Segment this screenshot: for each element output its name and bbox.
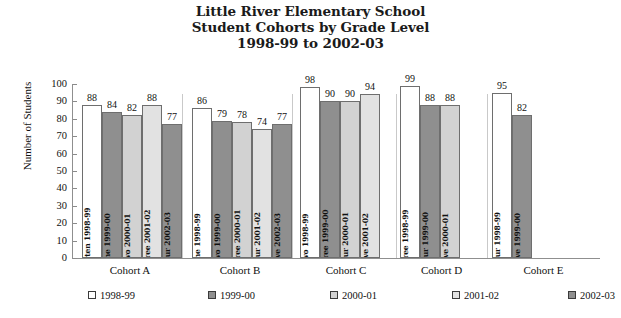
plot-area: Number of Students 100908070605040302010…	[0, 0, 621, 318]
bar-category-label: Grade Three 2001-02	[143, 210, 152, 258]
bar[interactable]: Grade Two 1998-99	[300, 87, 320, 258]
y-axis-tick-label: 50	[41, 166, 67, 176]
bar-category-label: Grade Two 2000-01	[123, 214, 132, 258]
y-axis-tick-mark	[73, 171, 77, 172]
legend-item[interactable]: 1998-99	[88, 288, 135, 302]
bar[interactable]: Grade Two 2000-01	[122, 115, 142, 258]
cohort-axis-label: Cohort D	[396, 264, 487, 276]
bar-value-label: 88	[139, 92, 165, 103]
cohort-separator	[182, 94, 183, 258]
cohort-axis-label: Cohort A	[78, 264, 182, 276]
y-axis-tick-label: 90	[41, 96, 67, 106]
y-axis-tick-mark	[73, 136, 77, 137]
legend-label: 1999-00	[220, 290, 255, 301]
bar-category-label: Grade Five 2002-03	[273, 213, 282, 258]
legend-swatch-icon	[452, 291, 460, 299]
cohort-separator	[396, 94, 397, 258]
y-axis-tick-label: 20	[41, 218, 67, 228]
bar-category-label: Grade Two 1999-00	[213, 214, 222, 258]
bar-category-label: Kindergarten 1998-99	[83, 208, 92, 258]
bar-value-label: 94	[357, 81, 383, 92]
bar-category-label: Grade Four 1999-00	[421, 212, 430, 258]
y-axis-tick-mark	[73, 101, 77, 102]
bar[interactable]: Grade Five 2001-02	[360, 94, 380, 258]
bar[interactable]: Grade Four 1998-99	[492, 93, 512, 258]
x-axis-line	[72, 258, 600, 259]
legend-swatch-icon	[330, 291, 338, 299]
y-axis-tick-mark	[73, 84, 77, 85]
bar-category-label: Grade Four 1998-99	[493, 212, 502, 258]
y-axis-tick-mark	[73, 154, 77, 155]
y-axis-tick-label: 0	[41, 253, 67, 263]
bar[interactable]: Grade One 1999-00	[102, 112, 122, 258]
legend-item[interactable]: 2002-03	[568, 288, 615, 302]
chart-legend: 1998-991999-002000-012001-022002-03	[0, 288, 621, 304]
legend-swatch-icon	[88, 291, 96, 299]
y-axis-tick-mark	[73, 241, 77, 242]
y-axis-tick-label: 40	[41, 183, 67, 193]
bar[interactable]: Grade Four 2001-02	[252, 129, 272, 258]
y-axis-tick-label: 70	[41, 131, 67, 141]
bar-category-label: Grade Two 1998-99	[301, 214, 310, 258]
bar[interactable]: Grade Three 1998-99	[400, 86, 420, 258]
legend-label: 1998-99	[100, 290, 135, 301]
legend-swatch-icon	[208, 291, 216, 299]
cohort-axis-label: Cohort B	[188, 264, 292, 276]
legend-item[interactable]: 1999-00	[208, 288, 255, 302]
bar-category-label: Grade Four 2000-01	[341, 212, 350, 258]
cohort-axis-label: Cohort C	[296, 264, 396, 276]
bar[interactable]: Grade Four 2002-03	[162, 124, 182, 258]
legend-item[interactable]: 2001-02	[452, 288, 499, 302]
bar[interactable]: Grade Four 1999-00	[420, 105, 440, 258]
bar[interactable]: Grade Five 1999-00	[512, 115, 532, 258]
bar-category-label: Grade Three 1999-00	[321, 210, 330, 258]
bar-category-label: Grade Three 2000-01	[233, 210, 242, 258]
bar-category-label: Grade Five 2001-02	[361, 213, 370, 258]
y-axis-tick-mark	[73, 188, 77, 189]
y-axis-tick-mark	[73, 206, 77, 207]
legend-item[interactable]: 2000-01	[330, 288, 377, 302]
bar-category-label: Grade Four 2001-02	[253, 212, 262, 258]
bar[interactable]: Grade Two 1999-00	[212, 121, 232, 258]
y-axis-tick-mark	[73, 119, 77, 120]
bar-value-label: 95	[489, 80, 515, 91]
bar-category-label: Grade One 1998-99	[193, 213, 202, 258]
bar[interactable]: Grade Five 2000-01	[440, 105, 460, 258]
chart-root: Little River Elementary School Student C…	[0, 0, 621, 318]
bar[interactable]: Grade Five 2002-03	[272, 124, 292, 258]
bar-category-label: Grade Three 1998-99	[401, 210, 410, 258]
y-axis-tick-label: 10	[41, 236, 67, 246]
bar-category-label: Grade Five 1999-00	[513, 213, 522, 258]
legend-label: 2001-02	[464, 290, 499, 301]
y-axis-tick-label: 60	[41, 149, 67, 159]
cohort-axis-label: Cohort E	[487, 264, 600, 276]
y-axis-tick-label: 30	[41, 201, 67, 211]
bar[interactable]: Grade Three 2001-02	[142, 105, 162, 258]
bar-value-label: 99	[397, 73, 423, 84]
y-axis-tick-label: 80	[41, 114, 67, 124]
y-axis-title: Number of Students	[21, 51, 33, 201]
cohort-separator	[487, 94, 488, 258]
bar[interactable]: Grade Four 2000-01	[340, 101, 360, 258]
bar[interactable]: Grade Three 1999-00	[320, 101, 340, 258]
bar-value-label: 82	[509, 102, 535, 113]
y-axis-tick-mark	[73, 223, 77, 224]
bar-value-label: 88	[437, 92, 463, 103]
cohort-separator	[292, 94, 293, 258]
legend-label: 2000-01	[342, 290, 377, 301]
bar-category-label: Grade Four 2002-03	[163, 212, 172, 258]
bar-category-label: Grade One 1999-00	[103, 213, 112, 258]
y-axis-tick-label: 100	[41, 79, 67, 89]
bar[interactable]: Kindergarten 1998-99	[82, 105, 102, 258]
bar-value-label: 86	[189, 95, 215, 106]
legend-label: 2002-03	[580, 290, 615, 301]
bar[interactable]: Grade Three 2000-01	[232, 122, 252, 258]
bar[interactable]: Grade One 1998-99	[192, 108, 212, 258]
bar-value-label: 98	[297, 74, 323, 85]
legend-swatch-icon	[568, 291, 576, 299]
bar-category-label: Grade Five 2000-01	[441, 213, 450, 258]
y-axis-tick-mark	[73, 258, 77, 259]
